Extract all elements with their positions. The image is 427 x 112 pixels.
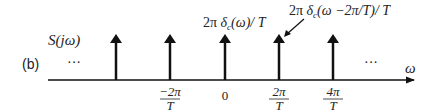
svg-text:−2π: −2π: [159, 84, 181, 99]
impulse: [327, 34, 339, 80]
tick-label: 2π T: [269, 84, 289, 112]
impulse: [164, 34, 176, 80]
panel-label: (b): [22, 56, 39, 72]
tick-label: 0: [222, 88, 229, 103]
impulse-arrow-icon: [219, 34, 231, 43]
svg-text:4π: 4π: [326, 84, 340, 99]
impulse: [273, 34, 285, 80]
impulse: [110, 34, 122, 80]
svg-text:0: 0: [222, 88, 229, 103]
impulse-train-diagram: (b) S(jω) ··· ··· ω 2π δc(ω)/ T 2π δc(ω …: [0, 0, 427, 112]
function-label: S(jω): [48, 32, 80, 49]
svg-text:T: T: [275, 98, 283, 112]
label-pointer-line: [287, 19, 304, 34]
svg-text:2π: 2π: [272, 84, 286, 99]
ellipsis-left: ···: [67, 55, 81, 70]
svg-text:T: T: [166, 98, 174, 112]
impulse-label-center: 2π δc(ω)/ T: [203, 15, 267, 32]
impulse-arrow-icon: [110, 34, 122, 43]
impulse-arrow-icon: [164, 34, 176, 43]
tick-label: 4π T: [323, 84, 343, 112]
impulse-label-shifted: 2π δc(ω −2π/T)/ T: [289, 3, 391, 20]
impulse: [219, 34, 231, 80]
diagram-svg: (b) S(jω) ··· ··· ω 2π δc(ω)/ T 2π δc(ω …: [0, 0, 427, 112]
svg-text:T: T: [329, 98, 337, 112]
tick-label: −2π T: [159, 84, 181, 112]
impulse-arrow-icon: [273, 34, 285, 43]
impulse-arrow-icon: [327, 34, 339, 43]
ellipsis-right: ···: [364, 55, 378, 70]
axis-arrowhead-icon: [406, 77, 415, 84]
axis-label: ω: [405, 60, 416, 76]
